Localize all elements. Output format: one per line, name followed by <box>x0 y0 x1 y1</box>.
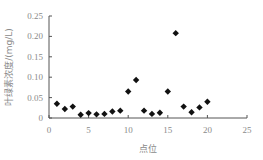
x-tick-label: 10 <box>124 125 134 135</box>
y-tick-label: 0.20 <box>27 31 43 41</box>
data-point <box>93 111 99 117</box>
data-point <box>149 111 155 117</box>
data-point <box>62 106 68 112</box>
x-tick-label: 25 <box>243 125 253 135</box>
scatter-chart: 00.050.100.150.200.25 0510152025 点位 叶绿素浓… <box>0 0 263 160</box>
data-point <box>204 98 210 104</box>
y-tick-label: 0.05 <box>27 93 43 103</box>
data-point <box>196 104 202 110</box>
y-axis-title: 叶绿素浓度/(mg/L) <box>3 28 14 106</box>
data-point <box>125 88 131 94</box>
data-point <box>165 88 171 94</box>
y-tick-label: 0 <box>39 113 44 123</box>
y-tick-label: 0.15 <box>27 52 43 62</box>
data-point <box>180 103 186 109</box>
x-tick-label: 5 <box>86 125 91 135</box>
data-point <box>133 77 139 83</box>
data-point <box>117 107 123 113</box>
data-point <box>70 103 76 109</box>
data-point <box>188 109 194 115</box>
data-point <box>173 30 179 36</box>
x-axis-title: 点位 <box>139 143 157 154</box>
data-point <box>109 108 115 114</box>
x-tick-label: 20 <box>203 125 213 135</box>
data-point <box>157 109 163 115</box>
x-tick-label: 0 <box>47 125 52 135</box>
data-point <box>77 112 83 118</box>
data-points <box>54 30 211 118</box>
data-point <box>141 107 147 113</box>
x-axis: 0510152025 <box>47 115 252 135</box>
data-point <box>54 101 60 107</box>
data-point <box>85 110 91 116</box>
y-tick-label: 0.25 <box>27 11 43 21</box>
y-tick-label: 0.10 <box>27 72 43 82</box>
x-tick-label: 15 <box>163 125 173 135</box>
data-point <box>101 111 107 117</box>
y-axis: 00.050.100.150.200.25 <box>27 11 52 123</box>
